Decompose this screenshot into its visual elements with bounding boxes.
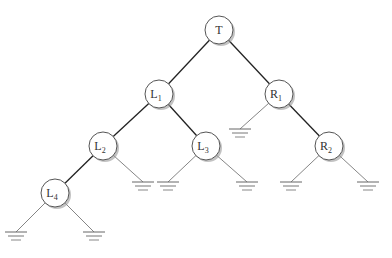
tree-node-l4: L4 [41, 179, 71, 209]
tree-node-l2: L2 [89, 132, 119, 162]
tree-node-t: T [205, 16, 235, 46]
tree-diagram: TL1R1L2L3R2L4 [0, 0, 392, 258]
ground-icon [5, 232, 27, 240]
tree-svg: TL1R1L2L3R2L4 [0, 0, 392, 258]
tree-node-r2: R2 [315, 132, 345, 162]
tree-node-r1: R1 [265, 80, 295, 110]
ground-icon [236, 182, 258, 190]
node-label: T [215, 23, 223, 37]
ground-icon [132, 182, 154, 190]
tree-node-l3: L3 [192, 132, 222, 162]
ground-icon [83, 232, 105, 240]
ground-icon [357, 182, 379, 190]
ground-icon [280, 182, 302, 190]
ground-icon [157, 182, 179, 190]
tree-node-l1: L1 [145, 80, 175, 110]
ground-icon [229, 129, 251, 137]
